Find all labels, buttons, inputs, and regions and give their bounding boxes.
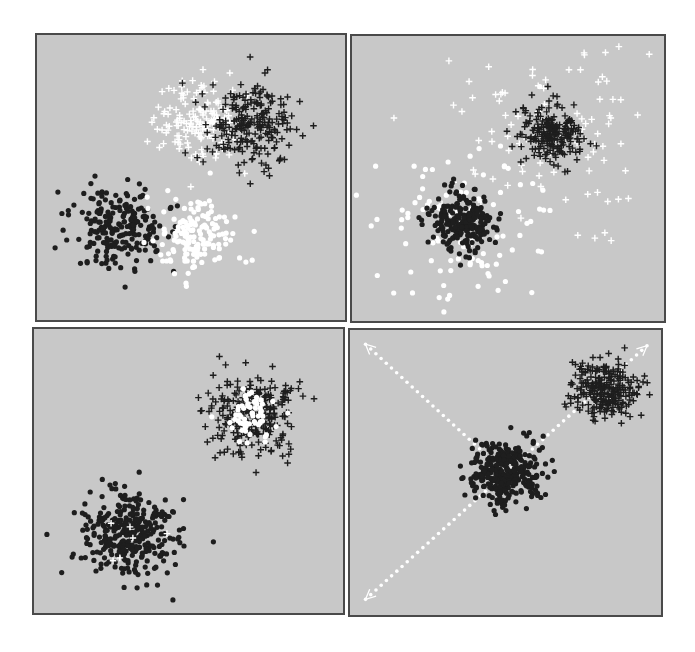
data-point-dot (540, 445, 545, 450)
data-point-cross (518, 215, 525, 222)
data-point-dot (471, 196, 476, 201)
data-point-dot (222, 215, 227, 220)
data-point-dot (441, 233, 446, 238)
data-point-dot (83, 523, 88, 528)
data-point-dot (95, 522, 100, 527)
data-point-cross (247, 54, 254, 61)
data-point-dot (195, 205, 200, 210)
data-point-cross (242, 359, 249, 366)
data-point-cross (255, 453, 262, 460)
data-point-cross (618, 420, 625, 427)
data-point-dot (477, 146, 482, 151)
data-point-dot (460, 475, 465, 480)
data-point-cross (210, 372, 217, 379)
data-point-dot (463, 206, 468, 211)
data-point-dot (467, 255, 472, 260)
data-point-cross (203, 116, 210, 123)
data-point-cross (575, 399, 582, 406)
data-point-dot (122, 548, 127, 553)
data-point-dot (369, 223, 374, 228)
data-point-dot (518, 454, 523, 459)
data-point-dot (162, 230, 167, 235)
data-point-dot (203, 214, 208, 219)
data-point-dot (88, 240, 93, 245)
data-point-dot (132, 269, 137, 274)
data-point-dot (481, 172, 486, 177)
data-point-dot (135, 545, 140, 550)
data-point-dot (254, 402, 259, 407)
data-point-dot (166, 514, 171, 519)
data-point-dot (506, 447, 511, 452)
data-point-cross (574, 110, 581, 117)
data-point-dot (100, 494, 105, 499)
data-point-dot (494, 225, 499, 230)
data-point-dot (145, 571, 150, 576)
data-point-dot (491, 202, 496, 207)
data-point-dot (470, 446, 475, 451)
data-point-cross (590, 354, 597, 361)
data-point-cross (200, 159, 207, 166)
data-point-dot (417, 195, 422, 200)
data-point-dot (505, 467, 510, 472)
data-point-cross (295, 385, 302, 392)
data-point-dot (476, 284, 481, 289)
data-point-cross (605, 121, 612, 128)
data-point-dot (502, 502, 507, 507)
data-point-dot (436, 196, 441, 201)
data-point-cross (488, 128, 495, 135)
data-point-cross (156, 144, 163, 151)
data-point-dot (497, 253, 502, 258)
data-point-cross (277, 95, 284, 102)
data-point-dot (241, 406, 246, 411)
data-point-dot (166, 251, 171, 256)
data-point-dot (159, 531, 164, 536)
data-point-dot (441, 239, 446, 244)
data-point-dot (263, 434, 268, 439)
data-point-cross (218, 435, 225, 442)
data-point-dot (186, 271, 191, 276)
data-point-cross (182, 101, 189, 108)
data-point-dot (476, 258, 481, 263)
data-point-cross (311, 396, 318, 403)
data-point-cross (505, 147, 512, 154)
scatter-series-0 (195, 353, 317, 476)
data-point-cross (279, 453, 286, 460)
data-point-dot (461, 196, 466, 201)
data-point-dot (216, 256, 221, 261)
data-point-dot (99, 261, 104, 266)
data-point-dot (263, 439, 268, 444)
data-point-cross (300, 393, 307, 400)
data-point-dot (124, 191, 129, 196)
data-point-cross (271, 144, 278, 151)
data-point-dot (88, 489, 93, 494)
data-point-dot (245, 440, 250, 445)
scatter-series-0 (53, 174, 180, 290)
data-point-dot (201, 224, 206, 229)
data-point-dot (448, 258, 453, 263)
scatter-plot-bottom-left (34, 329, 343, 613)
data-point-dot (473, 495, 478, 500)
data-point-cross (251, 106, 258, 113)
data-point-dot (95, 249, 100, 254)
data-point-dot (456, 256, 461, 261)
data-point-dot (534, 483, 539, 488)
data-point-dot (172, 238, 177, 243)
data-point-dot (448, 208, 453, 213)
data-point-dot (175, 228, 180, 233)
data-point-dot (143, 187, 148, 192)
data-point-dot (150, 544, 155, 549)
data-point-dot (133, 563, 138, 568)
data-point-dot (191, 210, 196, 215)
data-point-dot (85, 259, 90, 264)
data-point-dot (148, 526, 153, 531)
data-point-dot (127, 569, 132, 574)
data-point-cross (200, 66, 207, 73)
data-point-cross (502, 112, 509, 119)
data-point-cross (238, 135, 245, 142)
data-point-dot (529, 290, 534, 295)
data-point-dot (98, 510, 103, 515)
data-point-cross (588, 116, 595, 123)
data-point-cross (529, 66, 536, 73)
data-point-cross (249, 156, 256, 163)
data-point-cross (638, 412, 645, 419)
